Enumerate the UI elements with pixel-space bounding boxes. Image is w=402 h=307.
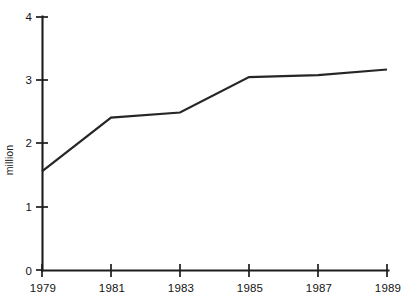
x-tick-label-1981: 1981 [99, 282, 125, 294]
y-tick-label-3: 3 [25, 74, 32, 86]
y-tick-label-0: 0 [25, 265, 32, 277]
chart-canvas: 4 3 2 1 0 million 1979 1981 1983 1985 19… [0, 0, 402, 307]
x-tick-label-1983: 1983 [168, 282, 194, 294]
x-tick-label-1985: 1985 [237, 282, 263, 294]
line-chart: 4 3 2 1 0 million 1979 1981 1983 1985 19… [0, 0, 402, 307]
y-tick-label-2: 2 [25, 137, 32, 149]
x-tick-label-1989: 1989 [375, 282, 401, 294]
x-tick-label-1987: 1987 [306, 282, 332, 294]
x-tick-label-1979: 1979 [30, 282, 56, 294]
chart-background [0, 0, 402, 307]
y-tick-label-4: 4 [25, 11, 32, 23]
y-tick-label-1: 1 [25, 201, 32, 213]
y-axis-title: million [3, 145, 15, 176]
